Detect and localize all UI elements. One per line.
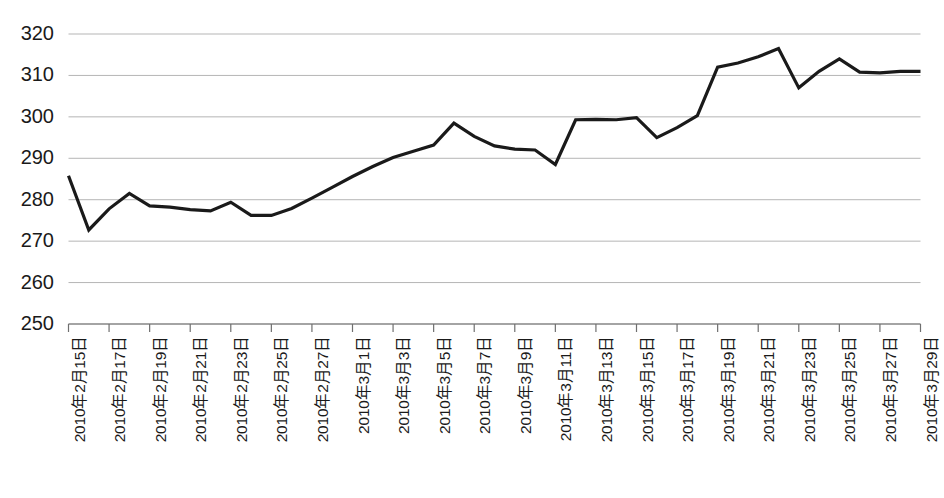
y-tick-label: 290 — [0, 147, 54, 167]
y-tick-label: 310 — [0, 64, 54, 84]
x-tick-label: 2010年2月25日 — [274, 336, 289, 442]
x-tick-label: 2010年3月19日 — [721, 336, 736, 442]
x-tick-label: 2010年3月1日 — [356, 336, 371, 434]
x-tick-label: 2010年2月21日 — [193, 336, 208, 442]
x-tick-label: 2010年3月23日 — [802, 336, 817, 442]
x-tick-label: 2010年3月21日 — [761, 336, 776, 442]
x-tick-marks-group — [69, 324, 921, 332]
x-tick-label: 2010年2月27日 — [315, 336, 330, 442]
y-tick-label: 270 — [0, 230, 54, 250]
x-tick-label: 2010年3月13日 — [599, 336, 614, 442]
x-tick-label: 2010年3月3日 — [396, 336, 411, 434]
y-tick-label: 250 — [0, 313, 54, 333]
x-tick-label: 2010年2月15日 — [72, 336, 87, 442]
x-tick-label: 2010年3月9日 — [518, 336, 533, 434]
y-tick-label: 260 — [0, 272, 54, 292]
x-tick-label: 2010年2月23日 — [234, 336, 249, 442]
x-tick-label: 2010年3月5日 — [437, 336, 452, 434]
x-tick-label: 2010年2月17日 — [112, 336, 127, 442]
line-chart: 250260270280290300310320 2010年2月15日2010年… — [0, 0, 944, 498]
y-tick-label: 280 — [0, 189, 54, 209]
x-tick-label: 2010年2月19日 — [153, 336, 168, 442]
x-tick-label: 2010年3月25日 — [842, 336, 857, 442]
y-tick-label: 300 — [0, 106, 54, 126]
x-tick-label: 2010年3月27日 — [883, 336, 898, 442]
x-tick-label: 2010年3月7日 — [477, 336, 492, 434]
chart-page: 250260270280290300310320 2010年2月15日2010年… — [0, 0, 944, 498]
x-tick-label: 2010年3月29日 — [924, 336, 939, 442]
x-tick-label: 2010年3月11日 — [558, 336, 573, 441]
x-tick-label: 2010年3月17日 — [680, 336, 695, 442]
y-tick-label: 320 — [0, 23, 54, 43]
x-tick-label: 2010年3月15日 — [640, 336, 655, 442]
